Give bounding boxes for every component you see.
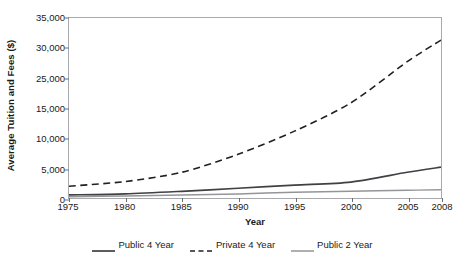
- legend-item[interactable]: Public 4 Year: [92, 239, 173, 250]
- y-axis-tick-label: 30,000: [18, 42, 65, 53]
- dashed-line-icon: [190, 241, 213, 249]
- y-axis-tick-label-group: 35,00030,00025,00015,00010,0005,0000: [18, 0, 65, 210]
- chart-legend: Public 4 YearPrivate 4 YearPublic 2 Year: [0, 239, 465, 250]
- legend-item-label: Public 4 Year: [118, 239, 173, 250]
- y-axis-tick-label: 25,000: [18, 72, 65, 83]
- y-axis-title-label: Average Tuition and Fees ($): [6, 39, 17, 171]
- x-axis-title: Year: [68, 216, 442, 227]
- x-axis-tick-label: 2005: [397, 201, 418, 212]
- series-line-private-4-year: [69, 40, 441, 186]
- plot-area: [68, 17, 442, 199]
- legend-item[interactable]: Public 2 Year: [291, 239, 372, 250]
- y-axis-tick-mark: [65, 18, 69, 19]
- solid-gray-line-icon: [291, 241, 314, 249]
- x-axis-tick-label: 2000: [341, 201, 362, 212]
- y-axis-tick-mark: [65, 139, 69, 140]
- solid-dark-line-icon: [92, 241, 115, 249]
- y-axis-tick-mark: [65, 169, 69, 170]
- y-axis-tick-label: 35,000: [18, 12, 65, 23]
- legend-item-label: Private 4 Year: [216, 239, 275, 250]
- line-chart-figure: Average Tuition and Fees ($) 35,00030,00…: [0, 0, 465, 266]
- y-axis-tick-mark: [65, 78, 69, 79]
- x-axis-tick-label: 1990: [227, 201, 248, 212]
- x-axis-tick-label-group: 19751980198519901995200020052008: [68, 201, 442, 215]
- legend-item-label: Public 2 Year: [317, 239, 372, 250]
- y-axis-tick-mark: [65, 48, 69, 49]
- y-axis-tick-mark: [65, 109, 69, 110]
- x-axis-tick-label: 1980: [114, 201, 135, 212]
- x-axis-tick-label: 1995: [284, 201, 305, 212]
- legend-item[interactable]: Private 4 Year: [190, 239, 275, 250]
- x-axis-tick-label: 1975: [57, 201, 78, 212]
- y-axis-tick-label: 15,000: [18, 103, 65, 114]
- plot-series-canvas: [69, 18, 441, 198]
- y-axis-tick-label: 10,000: [18, 133, 65, 144]
- x-axis-tick-label: 2008: [431, 201, 452, 212]
- y-axis-tick-label: 5,000: [18, 163, 65, 174]
- x-axis-tick-label: 1985: [171, 201, 192, 212]
